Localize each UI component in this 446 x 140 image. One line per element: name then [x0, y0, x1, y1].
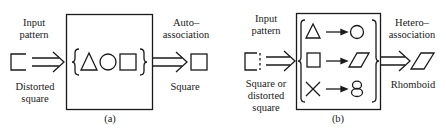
- right-brace-icon: [372, 20, 379, 102]
- input-desc-line1: Square or: [240, 78, 292, 90]
- input-desc-line1: Distorted: [8, 81, 62, 93]
- input-label-line1: Input: [14, 17, 54, 29]
- output-desc-a: Square: [160, 81, 210, 93]
- caption-a: (a): [95, 113, 125, 125]
- left-brace-icon: [72, 49, 79, 75]
- triangle-icon: [306, 24, 320, 38]
- left-brace-icon: [298, 20, 305, 102]
- output-label-line1: Hetero–: [380, 17, 444, 29]
- square-icon: [120, 54, 136, 70]
- input-label-b: Input pattern: [246, 13, 286, 37]
- output-square-icon: [191, 54, 207, 70]
- dotted-square-icon: [245, 53, 257, 70]
- double-arrow-icon: [32, 52, 64, 72]
- double-arrow-icon: [266, 51, 295, 71]
- caption-b: (b): [323, 113, 353, 125]
- double-arrow-icon: [153, 52, 187, 72]
- output-rhomboid-icon: [411, 53, 434, 69]
- circle-icon: [351, 26, 364, 39]
- arrow-icon: [326, 59, 347, 64]
- output-label-line1: Auto–: [154, 17, 218, 29]
- input-desc-line2: distorted: [240, 90, 292, 102]
- output-desc-b: Rhomboid: [384, 79, 442, 91]
- arrow-icon: [326, 87, 347, 92]
- square-icon: [307, 53, 320, 67]
- input-label-a: Input pattern: [14, 17, 54, 41]
- triangle-icon: [81, 53, 97, 70]
- input-label-line2: pattern: [14, 29, 54, 41]
- eight-icon: [352, 81, 363, 96]
- cross-icon: [306, 82, 320, 96]
- output-label-line2: association: [380, 29, 444, 41]
- double-arrow-icon: [381, 51, 410, 71]
- circle-icon: [100, 54, 116, 70]
- input-label-line2: pattern: [246, 25, 286, 37]
- output-label-b: Hetero– association: [380, 17, 444, 41]
- memory-box-a: [67, 15, 153, 110]
- output-label-line2: association: [154, 29, 218, 41]
- input-label-line1: Input: [246, 13, 286, 25]
- input-desc-line3: square: [240, 102, 292, 114]
- rhomboid-icon: [349, 53, 369, 67]
- output-label-a: Auto– association: [154, 17, 218, 41]
- input-desc-b: Square or distorted square: [240, 78, 292, 114]
- right-brace-icon: [140, 49, 147, 75]
- distorted-square-icon: [11, 54, 26, 70]
- input-desc-a: Distorted square: [8, 81, 62, 105]
- input-desc-line2: square: [8, 93, 62, 105]
- arrow-icon: [326, 30, 347, 35]
